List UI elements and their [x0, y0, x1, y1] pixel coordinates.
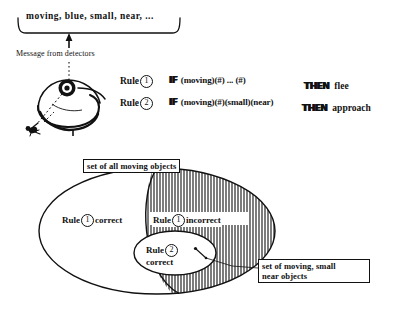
r1i-word: Rule: [153, 215, 171, 225]
r2c-state: correct: [146, 257, 173, 267]
detector-message-text: moving, blue, small, near, ...: [26, 12, 154, 22]
r2c-word: Rule: [146, 245, 164, 255]
rule-2-if-keyword: IF: [168, 97, 179, 107]
rule-1-consequent: THEN flee: [303, 76, 349, 93]
region-label-rule-1-correct: Rule1correct: [62, 214, 122, 227]
rule-1-word: Rule: [120, 76, 139, 86]
rule-1-if-keyword: IF: [168, 75, 179, 85]
subset-label-line-2: near objects: [262, 271, 307, 281]
r1c-state: correct: [95, 215, 122, 225]
rule-1-then-keyword: THEN: [303, 81, 330, 91]
label-set-of-moving-small-near-objects: set of moving, small near objects: [258, 259, 370, 283]
r1i-number: 1: [172, 214, 185, 227]
eye-sensor-icon: [59, 80, 76, 97]
fly-icon: [26, 123, 40, 136]
r1c-number: 1: [81, 214, 94, 227]
r2c-number: 2: [165, 244, 178, 257]
rule-1-action: flee: [334, 81, 348, 91]
rule-1-label: Rule1: [120, 75, 154, 88]
rule-2-action: approach: [332, 103, 370, 113]
region-label-rule-2-correct: Rule2 correct: [146, 244, 204, 268]
rule-1-antecedent: IF (moving)(#) ... (#): [168, 76, 246, 85]
rule-2-conditions: (moving)(#)(small)(near): [181, 97, 274, 107]
rule-2-number: 2: [140, 97, 153, 110]
region-label-rule-1-incorrect: Rule1incorrect: [152, 214, 222, 227]
rule-1-conditions: (moving)(#) ... (#): [181, 75, 246, 85]
up-arrow-icon: [66, 33, 73, 48]
r1i-state: incorrect: [186, 215, 221, 225]
rule-2-consequent: THEN approach: [301, 98, 371, 115]
rule-2-label: Rule2: [120, 97, 154, 110]
figure-canvas: moving, blue, small, near, ... Message f…: [0, 0, 400, 312]
rule-2-word: Rule: [120, 98, 139, 108]
message-from-detectors-caption: Message from detectors: [16, 50, 95, 58]
r1c-word: Rule: [62, 215, 80, 225]
subset-label-line-1: set of moving, small: [262, 261, 336, 271]
rule-2-antecedent: IF (moving)(#)(small)(near): [168, 98, 273, 107]
label-set-of-all-moving-objects: set of all moving objects: [83, 159, 180, 173]
rule-1-number: 1: [140, 75, 153, 88]
rule-2-then-keyword: THEN: [301, 103, 328, 113]
